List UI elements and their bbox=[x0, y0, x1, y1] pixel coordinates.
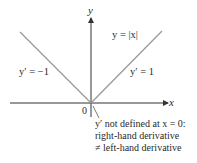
y-axis-label: y bbox=[87, 4, 93, 16]
abs-value-graph: y x 0 y = |x| y′ = −1 y′ = 1 y′ not defi… bbox=[0, 0, 197, 163]
left-slope-label: y′ = −1 bbox=[19, 66, 49, 77]
right-slope-label: y′ = 1 bbox=[130, 66, 154, 77]
x-axis-label: x bbox=[168, 96, 174, 108]
origin-label: 0 bbox=[82, 105, 87, 116]
annotation-pointer bbox=[93, 106, 99, 118]
annotation-line-1: y′ not defined at x = 0: bbox=[95, 118, 186, 129]
function-label: y = |x| bbox=[112, 29, 138, 40]
annotation-line-2: right-hand derivative bbox=[95, 130, 180, 141]
annotation-line-3: ≠ left-hand derivative bbox=[95, 142, 182, 153]
